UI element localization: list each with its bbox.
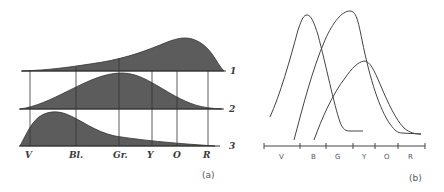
axis-label-v: V [279,153,284,161]
axis-label-b: B [311,153,316,161]
panel-b-labels: V B G Y O R (b) [279,153,422,183]
axis-label-y: Y [361,153,367,161]
panel-b [264,11,425,149]
band-label-o: O [173,150,181,160]
band-label-v: V [25,150,33,160]
curve-3-area [20,112,215,146]
panel-a: 1 2 3 V Bl. Gr. Y O R (a) [19,38,236,180]
axis-label-r: R [408,153,413,161]
band-label-r: R [202,150,211,160]
axis-label-o: O [384,153,390,161]
band-label-bl: Bl. [68,150,83,160]
axis-label-g: G [335,153,340,161]
curve-2-area [20,73,222,109]
band-label-gr: Gr. [113,150,128,160]
curve-label-1: 1 [230,66,236,76]
curve-label-3: 3 [229,141,235,151]
curve-1-area [22,38,224,71]
caption-a: (a) [202,170,215,180]
curve-long [314,61,421,140]
band-label-y: Y [147,150,155,160]
curve-middle [294,11,421,140]
curve-label-2: 2 [228,104,235,114]
figure: 1 2 3 V Bl. Gr. Y O R (a) V B [0,0,444,192]
caption-b: (b) [409,173,422,183]
